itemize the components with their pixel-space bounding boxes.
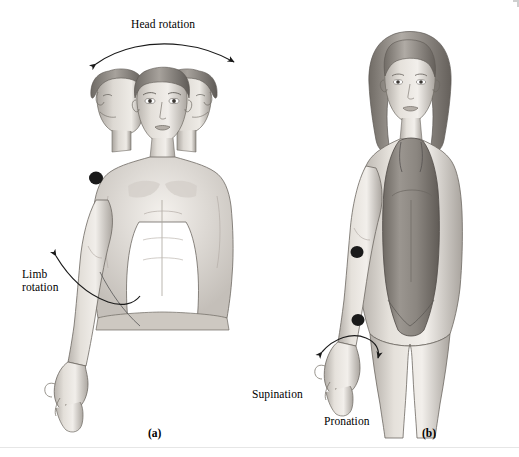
- panel-a: Head rotation Limb rotation (a): [0, 0, 300, 440]
- elbow-joint-marker: [351, 246, 364, 258]
- panel-b: Supination Pronation (b): [300, 0, 519, 440]
- panel-a-letter: (a): [148, 427, 161, 439]
- limb-rotation-label: Limb rotation: [22, 268, 59, 294]
- head-rotation-label: Head rotation: [131, 18, 195, 31]
- shoulder-joint-marker: [89, 172, 103, 185]
- panel-a-artwork: [0, 0, 300, 440]
- head-rotation-arrow: [96, 44, 234, 64]
- panel-b-letter: (b): [422, 427, 436, 439]
- bottom-divider: [0, 447, 519, 448]
- supination-label: Supination: [252, 388, 303, 401]
- figure-container: Head rotation Limb rotation (a): [0, 0, 519, 457]
- forearm-rotation-marker: [352, 314, 365, 326]
- pronation-label: Pronation: [324, 415, 370, 428]
- female-head: [380, 40, 439, 140]
- panel-b-artwork: [300, 0, 519, 440]
